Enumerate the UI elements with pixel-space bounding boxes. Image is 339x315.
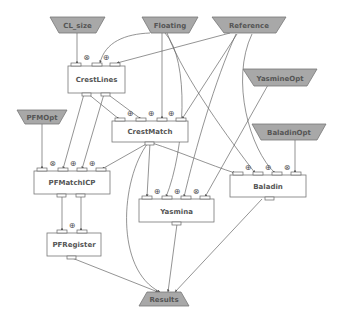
dot-product-icon: ⊕ — [168, 109, 175, 118]
processor-pfregister[interactable]: ⊕ PFRegister — [47, 221, 101, 259]
output-port[interactable] — [145, 142, 154, 145]
cross-product-icon: ⊗ — [83, 53, 90, 62]
input-label: Floating — [154, 22, 186, 30]
input-port[interactable] — [291, 172, 301, 175]
edge-pfregister-results — [72, 258, 158, 292]
edge-yasmina-results — [168, 224, 177, 292]
input-port[interactable] — [200, 196, 210, 199]
dot-product-icon: ⊕ — [148, 109, 155, 118]
input-port[interactable] — [142, 196, 152, 199]
input-port[interactable] — [37, 168, 47, 171]
output-port[interactable] — [172, 222, 181, 225]
cross-product-icon: ⊗ — [284, 163, 291, 172]
input-port[interactable] — [176, 118, 186, 121]
workflow-diagram: CL_size Floating Reference YasmineOpt PF… — [0, 0, 339, 315]
input-cl-size[interactable]: CL_size — [50, 17, 105, 33]
dot-product-icon: ⊕ — [245, 163, 252, 172]
processor-yasmina[interactable]: ⊕ ⊕ ⊗ Yasmina — [139, 187, 214, 225]
output-port[interactable] — [265, 197, 274, 200]
edge-reference-baladin — [243, 34, 275, 173]
input-port[interactable] — [181, 196, 191, 199]
edge-crestmatch-pfmatchicp — [102, 143, 148, 169]
processor-label: Yasmina — [159, 208, 193, 216]
processor-label: CrestLines — [76, 76, 118, 84]
processor-label: CrestMatch — [127, 128, 172, 136]
input-port[interactable] — [92, 63, 102, 66]
dot-product-icon: ⊕ — [70, 159, 77, 168]
cross-product-icon: ⊗ — [193, 187, 200, 196]
output-results[interactable]: Results — [139, 292, 189, 306]
processor-baladin[interactable]: ⊕ ⊕ ⊗ Baladin — [230, 163, 306, 200]
processor-label: Baladin — [253, 183, 283, 191]
input-port[interactable] — [136, 118, 146, 121]
input-port[interactable] — [71, 63, 81, 66]
edge-reference-yasmina — [184, 34, 236, 197]
input-label: CL_size — [63, 22, 92, 30]
input-baladin-opt[interactable]: BaladinOpt — [252, 124, 326, 140]
input-yasmine-opt[interactable]: YasmineOpt — [243, 69, 317, 86]
input-port[interactable] — [96, 168, 106, 171]
edge-floating-baladin — [167, 33, 255, 173]
input-port[interactable] — [115, 118, 125, 121]
output-port[interactable] — [101, 93, 110, 96]
dot-product-icon: ⊕ — [89, 159, 96, 168]
output-port[interactable] — [82, 93, 91, 96]
processor-label: PFRegister — [52, 241, 96, 249]
dot-product-icon: ⊕ — [127, 109, 134, 118]
input-floating[interactable]: Floating — [142, 17, 198, 33]
dot-product-icon: ⊕ — [174, 187, 181, 196]
input-port[interactable] — [272, 172, 282, 175]
dot-product-icon: ⊕ — [69, 221, 76, 230]
input-port[interactable] — [77, 230, 87, 233]
input-port[interactable] — [110, 63, 120, 66]
dot-product-icon: ⊕ — [265, 163, 272, 172]
input-reference[interactable]: Reference — [212, 17, 286, 33]
input-port[interactable] — [157, 118, 167, 121]
processor-crestlines[interactable]: ⊗ ⊕ CrestLines — [68, 53, 125, 96]
edge-crestlines-crestmatch-2 — [106, 93, 141, 119]
processor-label: PFMatchICP — [49, 179, 96, 187]
edge-crestmatch-yasmina — [147, 143, 150, 197]
output-port[interactable] — [76, 194, 85, 197]
input-label: PFMOpt — [26, 114, 58, 122]
input-port[interactable] — [162, 196, 172, 199]
input-port[interactable] — [57, 230, 67, 233]
dot-product-icon: ⊕ — [103, 53, 110, 62]
processor-pfmatchicp[interactable]: ⊗ ⊕ ⊕ PFMatchICP — [34, 159, 110, 197]
input-port[interactable] — [77, 168, 87, 171]
input-label: BaladinOpt — [267, 129, 312, 137]
input-port[interactable] — [58, 168, 68, 171]
output-port[interactable] — [57, 194, 66, 197]
input-port[interactable] — [233, 172, 243, 175]
output-port[interactable] — [67, 256, 76, 259]
cross-product-icon: ⊗ — [49, 159, 56, 168]
dot-product-icon: ⊕ — [154, 187, 161, 196]
edge-crestlines-pfmatchicp-2 — [82, 94, 104, 169]
input-label: Reference — [229, 22, 269, 30]
edge-crestlines-pfmatchicp-1 — [63, 94, 84, 169]
output-label: Results — [149, 296, 178, 304]
processor-crestmatch[interactable]: ⊕ ⊕ ⊕ CrestMatch — [112, 109, 188, 145]
input-label: YasmineOpt — [255, 75, 304, 83]
input-pfm-opt[interactable]: PFMOpt — [17, 110, 67, 124]
input-port[interactable] — [253, 172, 263, 175]
edge-reference-crestmatch — [182, 34, 237, 119]
